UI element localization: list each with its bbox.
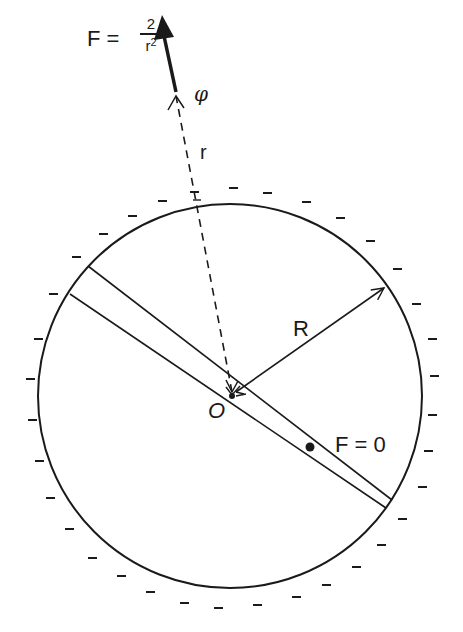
zero-force-label: F = 0 [335,434,386,456]
radius-arrow [236,288,384,392]
cone-line-upper [88,266,392,500]
zero-force-point [306,443,315,452]
cone-line-lower [70,294,386,508]
force-numerator: 2 [147,16,155,31]
fraction-bar [140,33,162,35]
force-label-fraction: 2 r2 [140,16,162,53]
force-arrow-shaft [164,36,176,92]
force-label-lhs: F = [87,28,119,50]
r-label: r [200,142,207,162]
origin-label: O [208,400,225,422]
diagram-canvas [0,0,463,632]
force-denominator: r2 [145,37,156,53]
origin-point [229,393,235,399]
radius-arrow-tail [236,392,244,394]
phi-label: φ [194,84,208,104]
R-label: R [293,318,309,340]
